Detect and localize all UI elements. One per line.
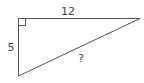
right-angle-marker — [19, 19, 26, 26]
right-triangle — [19, 19, 141, 77]
hypotenuse-label: ? — [78, 52, 84, 65]
triangle-diagram: 12 5 ? — [0, 0, 144, 83]
left-side-label: 5 — [8, 41, 15, 54]
top-side-label: 12 — [61, 5, 75, 18]
